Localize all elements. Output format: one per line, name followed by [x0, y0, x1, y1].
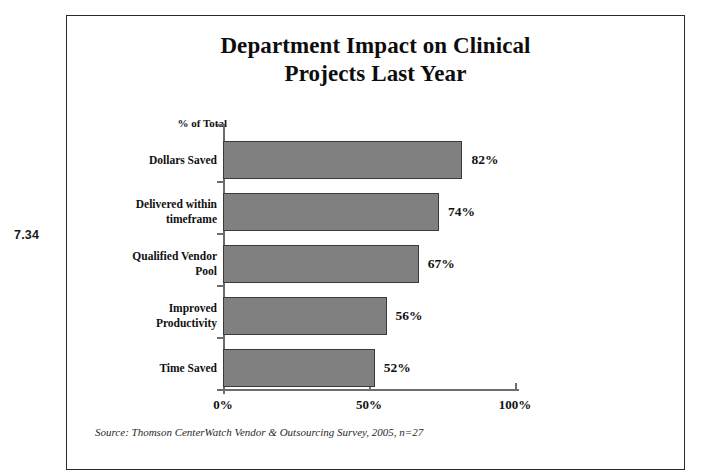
x-axis-tick	[515, 383, 517, 389]
category-label-line: Delivered within	[85, 197, 217, 212]
bar[interactable]	[223, 245, 419, 283]
bar-value-label: 74%	[439, 204, 475, 220]
category-label-line: timeframe	[85, 212, 217, 227]
bar-row: 74%	[223, 193, 515, 231]
bar-value-label: 56%	[387, 308, 423, 324]
category-label-line: Dollars Saved	[85, 153, 217, 168]
bar-row: 82%	[223, 141, 515, 179]
category-label: Dollars Saved	[85, 153, 217, 168]
bar-value-label: 67%	[419, 256, 455, 272]
bar[interactable]	[223, 297, 387, 335]
plot-area: 82%74%67%56%52%	[223, 129, 515, 389]
bar[interactable]	[223, 193, 439, 231]
x-axis-tick-label: 100%	[480, 397, 550, 413]
source-note: Source: Thomson CenterWatch Vendor & Out…	[95, 426, 423, 438]
bar-value-label: 52%	[375, 360, 411, 376]
x-axis-line	[223, 389, 519, 391]
bar-row: 67%	[223, 245, 515, 283]
chart-title-line-2: Projects Last Year	[67, 60, 684, 88]
y-axis-tick	[217, 124, 223, 126]
category-label: Delivered withintimeframe	[85, 197, 217, 226]
category-label: ImprovedProductivity	[85, 301, 217, 330]
bar-row: 52%	[223, 349, 515, 387]
category-label-line: Qualified Vendor	[85, 249, 217, 264]
figure-frame: Department Impact on Clinical Projects L…	[66, 15, 685, 470]
y-axis-tick	[217, 389, 223, 391]
x-axis-tick-label: 0%	[188, 397, 258, 413]
category-label-line: Improved	[85, 301, 217, 316]
axis-title: % of Total	[137, 117, 227, 129]
chart-title: Department Impact on Clinical Projects L…	[67, 32, 684, 88]
category-label: Qualified VendorPool	[85, 249, 217, 278]
bar[interactable]	[223, 141, 462, 179]
bar-value-label: 82%	[462, 152, 498, 168]
category-label-line: Time Saved	[85, 361, 217, 376]
chart-title-line-1: Department Impact on Clinical	[67, 32, 684, 60]
bar[interactable]	[223, 349, 375, 387]
figure-number: 7.34	[14, 228, 39, 242]
x-axis-tick-label: 50%	[334, 397, 404, 413]
bar-row: 56%	[223, 297, 515, 335]
category-label-line: Productivity	[85, 316, 217, 331]
category-label: Time Saved	[85, 361, 217, 376]
category-label-line: Pool	[85, 264, 217, 279]
